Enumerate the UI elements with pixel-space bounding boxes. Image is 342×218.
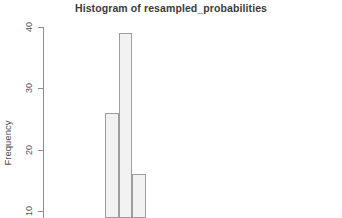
histogram-bar [132, 174, 146, 218]
histogram-bar [105, 113, 119, 218]
histogram-bars [0, 0, 342, 218]
histogram-plot: Histogram of resampled_probabilities 40 … [0, 0, 342, 218]
histogram-bar [119, 33, 133, 218]
